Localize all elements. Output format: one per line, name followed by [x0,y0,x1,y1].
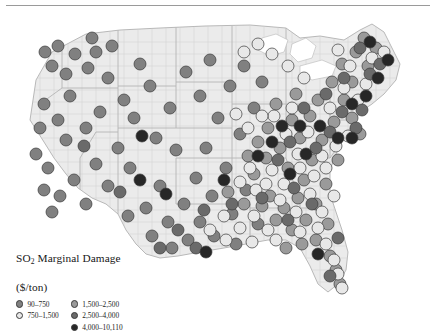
map-legend: SO2 Marginal Damage ($/ton) 90–750 750–1… [16,240,196,332]
legend-item-label: 1,500–2,500 [82,300,119,309]
legend-item: 1,500–2,500 [71,300,123,309]
legend-column-right: 1,500–2,500 2,500–4,000 4,000–10,110 [71,300,123,332]
legend-column-left: 90–750 750–1,500 [16,300,59,332]
legend-swatch-icon [16,312,23,319]
legend-swatch-icon [16,300,23,307]
legend-swatch-icon [71,324,78,331]
legend-swatch-icon [71,300,78,307]
legend-columns: 90–750 750–1,500 1,500–2,500 2,500–4,000… [16,300,196,332]
legend-title-rest: Marginal Damage [35,252,121,264]
legend-item: 2,500–4,000 [71,311,123,320]
legend-item: 750–1,500 [16,311,59,320]
legend-item-label: 4,000–10,110 [82,323,122,332]
legend-item-label: 750–1,500 [27,311,58,320]
legend-swatch-icon [71,312,78,319]
legend-item-label: 90–750 [27,300,49,309]
legend-item: 90–750 [16,300,59,309]
legend-item-label: 2,500–4,000 [82,311,119,320]
legend-title-main: SO [16,252,31,264]
legend-item: 4,000–10,110 [71,323,123,332]
legend-title: SO2 Marginal Damage ($/ton) [16,240,196,294]
header-rule [6,5,430,6]
legend-title-units: ($/ton) [16,281,47,293]
